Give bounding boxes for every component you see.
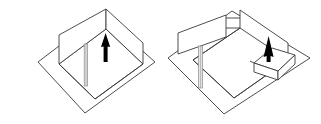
vertical-pole (84, 44, 87, 86)
diagram-canvas (0, 0, 321, 124)
left-figure (38, 9, 155, 113)
isometric-room-pair-svg (0, 0, 321, 124)
right-figure (168, 10, 310, 114)
vertical-pole (199, 46, 203, 88)
